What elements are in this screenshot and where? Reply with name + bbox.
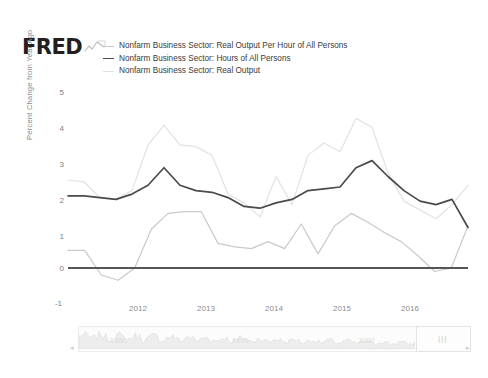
range-scroll-left-arrow[interactable]: ◂ [70, 344, 74, 352]
range-scroll-right-arrow[interactable]: ▸ [466, 344, 470, 352]
chart-series-line [68, 161, 468, 228]
drag-grip-icon[interactable]: ||| [438, 334, 447, 343]
chart-series-line [68, 212, 468, 281]
fred-chart-card: FRED Nonfarm Business Sector: Real Outpu… [0, 0, 488, 378]
chart-series-line [68, 118, 468, 218]
range-year-label: 1950 [110, 336, 127, 345]
range-year-label: 1975 [232, 336, 249, 345]
chart-plot-area [0, 0, 488, 378]
range-year-label: 2000 [358, 336, 375, 345]
